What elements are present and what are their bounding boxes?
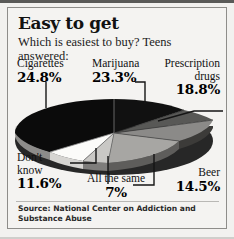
label-beer-text: Beer: [198, 166, 220, 178]
value-marijuana: 23.3%: [92, 70, 139, 85]
label-all-the-same-text: All the same: [87, 172, 145, 184]
label-dont-know-line1: Don't: [17, 151, 42, 163]
label-marijuana: Marijuana 23.3%: [92, 57, 139, 84]
pie-chart: Cigarettes 24.8% Marijuana 23.3% Prescri…: [8, 8, 227, 229]
source-divider: [16, 201, 219, 202]
value-beer: 14.5%: [168, 179, 220, 194]
source-note: Source: National Center on Addiction and…: [18, 204, 216, 223]
label-prescription-drugs: Prescription drugs 18.8%: [148, 57, 220, 97]
value-all-the-same: 7%: [87, 185, 145, 200]
chart-card: Easy to get Which is easiest to buy? Tee…: [7, 7, 227, 229]
label-dont-know: Don't know 11.6%: [17, 151, 69, 191]
infographic-panel: Easy to get Which is easiest to buy? Tee…: [0, 0, 234, 239]
label-cigarettes: Cigarettes 24.8%: [17, 57, 64, 84]
top-rule: [0, 0, 234, 3]
label-all-the-same: All the same 7%: [87, 172, 145, 199]
label-cigarettes-text: Cigarettes: [17, 57, 64, 69]
label-prescription-line2: drugs: [194, 70, 220, 82]
label-beer: Beer 14.5%: [168, 166, 220, 193]
bottom-rule: [0, 237, 234, 239]
value-cigarettes: 24.8%: [17, 70, 64, 85]
label-marijuana-text: Marijuana: [92, 57, 139, 69]
value-prescription-drugs: 18.8%: [148, 82, 220, 97]
label-prescription-line1: Prescription: [164, 57, 220, 69]
label-dont-know-line2: know: [17, 164, 43, 176]
value-dont-know: 11.6%: [17, 176, 69, 191]
